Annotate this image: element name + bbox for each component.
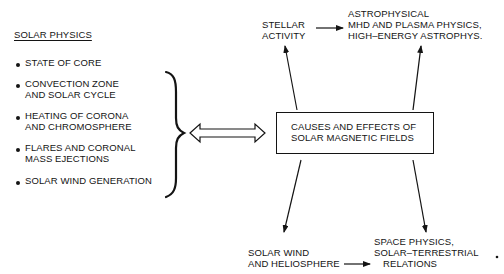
double-arrow-icon <box>190 124 265 142</box>
period-mark <box>496 256 499 259</box>
arrow-to-solar-wind <box>284 160 301 232</box>
arrow-to-stellar-activity <box>285 46 297 110</box>
curly-brace-icon <box>166 72 184 197</box>
diagram-connectors <box>0 0 504 274</box>
arrow-to-space-physics <box>413 160 426 232</box>
arrow-to-astrophysical <box>413 46 421 110</box>
